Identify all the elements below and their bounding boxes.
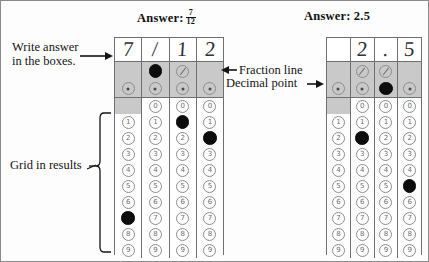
decimal-bubble[interactable] [403, 82, 416, 95]
digit-cell[interactable]: 1 [327, 114, 350, 130]
digit-cell[interactable]: 2 [351, 130, 374, 146]
digit-bubble-filled[interactable]: 1 [176, 115, 190, 129]
decimal-point-cell[interactable] [375, 80, 398, 98]
decimal-bubble[interactable] [176, 82, 189, 95]
fraction-line-cell[interactable] [197, 62, 223, 80]
digit-cell[interactable]: 2 [327, 130, 350, 146]
digit-cell[interactable]: 8 [197, 226, 223, 242]
digit-bubble[interactable]: 9 [176, 244, 189, 257]
digit-bubble[interactable]: 4 [403, 164, 416, 177]
digit-cell[interactable]: 5 [327, 178, 350, 194]
digit-cell[interactable]: 3 [115, 146, 141, 162]
digit-cell[interactable]: 7 [398, 210, 421, 226]
digit-bubble[interactable]: 1 [356, 116, 369, 129]
digit-cell[interactable]: 4 [327, 162, 350, 178]
digit-cell[interactable]: 2 [398, 130, 421, 146]
digit-cell[interactable]: 4 [351, 162, 374, 178]
digit-cell[interactable]: 2 [142, 130, 168, 146]
digit-bubble[interactable]: 2 [379, 132, 392, 145]
digit-bubble[interactable]: 9 [356, 244, 369, 257]
digit-cell[interactable]: 6 [398, 194, 421, 210]
decimal-point-cell[interactable] [351, 80, 374, 98]
digit-cell[interactable]: 7 [142, 210, 168, 226]
decimal-bubble[interactable] [149, 82, 162, 95]
digit-cell[interactable]: 5 [398, 178, 421, 194]
digit-bubble[interactable]: 9 [379, 244, 392, 257]
digit-bubble[interactable]: 0 [356, 100, 369, 113]
digit-bubble[interactable]: 6 [356, 196, 369, 209]
digit-cell[interactable]: 8 [115, 226, 141, 242]
digit-cell[interactable]: 1 [197, 114, 223, 130]
digit-bubble[interactable]: 0 [379, 100, 392, 113]
fraction-line-cell[interactable] [351, 62, 374, 80]
digit-bubble[interactable]: 0 [176, 100, 189, 113]
digit-cell[interactable]: 0 [351, 98, 374, 114]
digit-bubble[interactable]: 8 [176, 228, 189, 241]
digit-cell[interactable]: 2 [170, 130, 196, 146]
fraction-bubble[interactable] [379, 65, 392, 78]
digit-bubble[interactable]: 2 [149, 132, 162, 145]
digit-cell[interactable]: 1 [142, 114, 168, 130]
digit-bubble[interactable]: 2 [176, 132, 189, 145]
written-answer-cell[interactable]: 5 [398, 38, 421, 62]
digit-cell[interactable]: 3 [142, 146, 168, 162]
fraction-line-cell[interactable] [115, 62, 141, 80]
digit-bubble[interactable]: 1 [122, 116, 135, 129]
digit-bubble[interactable]: 1 [149, 116, 162, 129]
digit-bubble[interactable]: 3 [203, 148, 216, 161]
digit-bubble[interactable]: 0 [203, 100, 216, 113]
digit-cell[interactable]: 3 [327, 146, 350, 162]
digit-bubble[interactable]: 9 [149, 244, 162, 257]
digit-bubble[interactable]: 0 [403, 100, 416, 113]
digit-bubble[interactable]: 4 [332, 164, 345, 177]
digit-bubble[interactable]: 6 [379, 196, 392, 209]
digit-bubble[interactable]: 5 [356, 180, 369, 193]
digit-cell[interactable]: 7 [197, 210, 223, 226]
digit-bubble[interactable]: 2 [403, 132, 416, 145]
decimal-answer-grid[interactable]: 2.51234567890123456789012345678901234567… [326, 37, 422, 255]
digit-cell[interactable]: 9 [375, 242, 398, 258]
fraction-line-cell[interactable] [327, 62, 350, 80]
digit-cell[interactable]: 4 [197, 162, 223, 178]
digit-bubble[interactable]: 7 [332, 212, 345, 225]
digit-cell[interactable]: 7 [351, 210, 374, 226]
digit-bubble[interactable]: 8 [332, 228, 345, 241]
digit-bubble[interactable]: 3 [403, 148, 416, 161]
digit-cell[interactable]: 9 [327, 242, 350, 258]
digit-bubble[interactable]: 3 [332, 148, 345, 161]
decimal-point-cell[interactable] [398, 80, 421, 98]
digit-cell[interactable]: 4 [170, 162, 196, 178]
digit-cell[interactable]: 5 [170, 178, 196, 194]
digit-bubble[interactable]: 9 [203, 244, 216, 257]
decimal-point-cell[interactable] [142, 80, 168, 98]
digit-bubble[interactable]: 0 [149, 100, 162, 113]
digit-cell[interactable]: 6 [327, 194, 350, 210]
decimal-point-cell[interactable] [197, 80, 223, 98]
written-answer-cell[interactable]: / [142, 38, 169, 62]
decimal-bubble[interactable] [203, 82, 216, 95]
digit-cell[interactable]: 6 [375, 194, 398, 210]
digit-bubble[interactable]: 1 [332, 116, 345, 129]
digit-cell[interactable]: 4 [398, 162, 421, 178]
digit-cell[interactable]: 3 [398, 146, 421, 162]
fraction-answer-grid[interactable]: 7/12123456789012345678901234567890123456… [114, 37, 224, 255]
digit-cell[interactable]: 8 [375, 226, 398, 242]
digit-cell[interactable]: 9 [351, 242, 374, 258]
digit-bubble[interactable]: 1 [203, 116, 216, 129]
digit-cell[interactable]: 7 [170, 210, 196, 226]
digit-bubble[interactable]: 4 [176, 164, 189, 177]
digit-bubble-filled[interactable]: 5 [403, 179, 417, 193]
digit-cell[interactable]: 9 [197, 242, 223, 258]
digit-cell[interactable]: 5 [375, 178, 398, 194]
digit-cell[interactable]: 1 [351, 114, 374, 130]
digit-bubble[interactable]: 2 [332, 132, 345, 145]
digit-cell[interactable]: 5 [197, 178, 223, 194]
decimal-bubble-filled[interactable] [379, 82, 393, 96]
digit-bubble[interactable]: 8 [356, 228, 369, 241]
digit-cell[interactable]: 3 [170, 146, 196, 162]
fraction-bubble-filled[interactable] [149, 64, 163, 78]
digit-bubble[interactable]: 3 [176, 148, 189, 161]
digit-bubble[interactable]: 4 [122, 164, 135, 177]
digit-bubble[interactable]: 8 [379, 228, 392, 241]
digit-cell[interactable]: 0 [142, 98, 168, 114]
